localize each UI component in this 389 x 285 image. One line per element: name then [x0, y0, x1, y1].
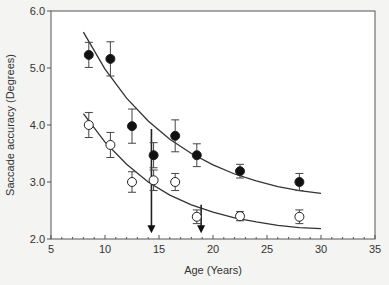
y-tick-label: 2.0 — [30, 233, 45, 245]
filled-point — [106, 54, 115, 63]
x-tick-label: 30 — [315, 243, 327, 255]
x-tick-label: 35 — [369, 243, 381, 255]
chart: 5101520253035 2.03.04.05.06.0 Age (Years… — [0, 0, 389, 285]
x-tick-label: 20 — [207, 243, 219, 255]
filled-point — [84, 50, 93, 59]
x-axis-title: Age (Years) — [184, 264, 242, 276]
open-point — [128, 178, 137, 187]
open-point — [84, 121, 93, 130]
x-tick-label: 5 — [48, 243, 54, 255]
open-point — [149, 176, 158, 185]
filled-point — [236, 167, 245, 176]
plot-frame — [51, 11, 375, 239]
filled-point — [192, 151, 201, 160]
y-tick-label: 5.0 — [30, 62, 45, 74]
filled-point — [171, 131, 180, 140]
open-point — [106, 140, 115, 149]
open-point — [295, 212, 304, 221]
filled-point — [149, 151, 158, 160]
x-tick-label: 25 — [261, 243, 273, 255]
x-tick-label: 10 — [99, 243, 111, 255]
filled-point — [295, 178, 304, 187]
y-tick-label: 6.0 — [30, 5, 45, 17]
y-axis-title: Saccade accuracy (Degrees) — [4, 54, 16, 196]
filled-point — [128, 122, 137, 131]
x-tick-label: 15 — [153, 243, 165, 255]
y-tick-label: 3.0 — [30, 176, 45, 188]
open-point — [171, 178, 180, 187]
open-point — [236, 212, 245, 221]
open-point — [192, 212, 201, 221]
y-axis-ticks: 2.03.04.05.06.0 — [30, 5, 51, 245]
y-tick-label: 4.0 — [30, 119, 45, 131]
